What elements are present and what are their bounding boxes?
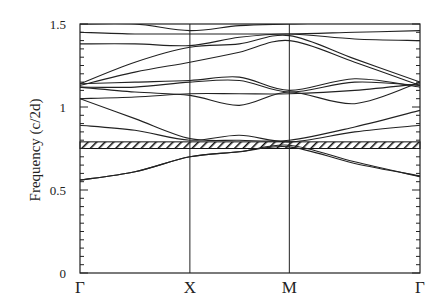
k-point-label: Γ xyxy=(415,278,425,297)
band-line xyxy=(80,125,420,142)
x-axis-labels: ΓXMΓ xyxy=(75,278,425,297)
band-line xyxy=(80,31,420,34)
band-line xyxy=(80,99,420,142)
svg-text:Frequency (c/2d): Frequency (c/2d) xyxy=(27,99,44,202)
k-point-label: M xyxy=(282,278,297,297)
band-line xyxy=(80,35,420,84)
band-structure-chart: Frequency (c/2d) 00.511.5 ΓXMΓ xyxy=(0,0,447,307)
y-tick-label: 1.5 xyxy=(50,17,66,32)
band-line xyxy=(80,40,420,85)
band-lines xyxy=(80,22,420,180)
band-line xyxy=(80,146,420,180)
k-point-label: Γ xyxy=(75,278,85,297)
k-point-label: X xyxy=(184,278,196,297)
y-tick-label: 1 xyxy=(60,100,67,115)
band-gap-hatch xyxy=(80,142,420,149)
band-line xyxy=(80,77,420,91)
band-line xyxy=(80,34,420,46)
y-tick-label: 0 xyxy=(60,266,67,281)
y-axis-title: Frequency (c/2d) xyxy=(27,99,44,202)
band-gap-region xyxy=(80,142,420,149)
y-tick-label: 0.5 xyxy=(50,183,66,198)
